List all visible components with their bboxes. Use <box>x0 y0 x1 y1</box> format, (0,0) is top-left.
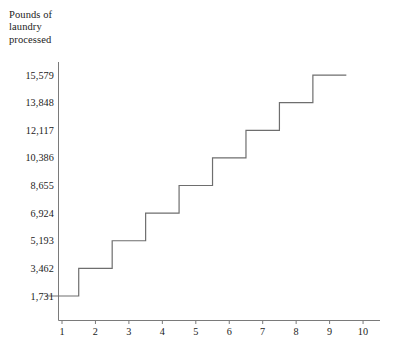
y-tick-label: 5,193 <box>8 235 54 246</box>
x-tick-label: 10 <box>352 326 374 337</box>
y-tick-label: 1,731 <box>8 291 54 302</box>
x-tick-label: 1 <box>51 326 73 337</box>
x-tick-label: 2 <box>84 326 106 337</box>
x-tick-label: 3 <box>118 326 140 337</box>
x-tick-label: 9 <box>319 326 341 337</box>
y-tick-label: 8,655 <box>8 180 54 191</box>
x-tick-label: 8 <box>285 326 307 337</box>
y-tick-label: 12,117 <box>8 125 54 136</box>
y-tick-label: 13,848 <box>8 97 54 108</box>
y-tick-label: 10,386 <box>8 152 54 163</box>
x-tick-label: 7 <box>252 326 274 337</box>
y-tick-label: 6,924 <box>8 208 54 219</box>
axis-lines <box>59 62 381 321</box>
step-series-line <box>45 75 346 296</box>
y-tick-label: 3,462 <box>8 263 54 274</box>
step-chart-figure: Pounds of laundry processed 1,7313,4625,… <box>0 0 401 349</box>
x-axis-tickmarks <box>62 321 363 325</box>
x-tick-label: 6 <box>218 326 240 337</box>
chart-canvas <box>0 0 401 349</box>
x-tick-label: 4 <box>151 326 173 337</box>
y-tick-label: 15,579 <box>8 70 54 81</box>
x-tick-label: 5 <box>185 326 207 337</box>
